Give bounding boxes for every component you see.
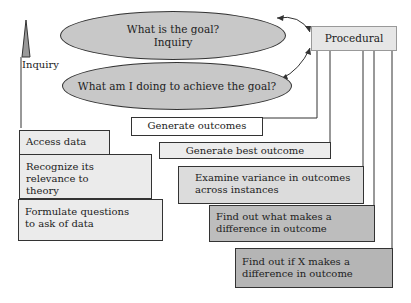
right-box-generate-best: Generate best outcome xyxy=(159,142,331,159)
left-box-access-data: Access data xyxy=(19,130,110,155)
goal-text: What is the goal? xyxy=(127,23,219,36)
goal-ellipse: What is the goal?Inquiry xyxy=(60,11,286,60)
right-box-examine-variance: Examine variance in outcomes across inst… xyxy=(178,166,364,204)
right-box-if-x-makes-difference: Find out if X makes a difference in outc… xyxy=(235,248,393,288)
achieve-ellipse: What am I doing to achieve the goal? xyxy=(62,62,292,110)
achieve-text: What am I doing to achieve the goal? xyxy=(78,80,276,93)
left-box-recognize: Recognize its relevance to theory xyxy=(19,154,152,199)
right-box-generate-outcomes: Generate outcomes xyxy=(131,117,263,136)
inquiry-label: Inquiry xyxy=(22,59,59,70)
left-box-formulate: Formulate questions to ask of data xyxy=(18,199,163,241)
right-box-what-makes-difference: Find out what makes a difference in outc… xyxy=(209,205,375,242)
procedural-box: Procedural xyxy=(311,26,397,51)
diagram: What is the goal?Inquiry What am I doing… xyxy=(0,0,411,303)
goal-inquiry-text: Inquiry xyxy=(127,36,219,49)
